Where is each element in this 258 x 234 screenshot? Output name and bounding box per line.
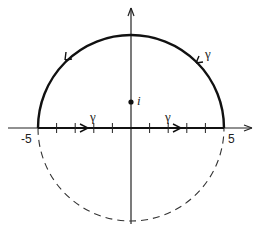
label-gamma-axis-right: γ <box>165 110 171 123</box>
arc-direction-arrow-right <box>196 56 203 63</box>
label-point-i: i <box>137 94 141 107</box>
label-left-bound: -5 <box>21 133 32 145</box>
point-i-marker <box>128 99 133 104</box>
label-gamma-arc: γ <box>205 47 211 60</box>
label-right-bound: 5 <box>228 133 235 145</box>
contour-diagram <box>0 0 258 234</box>
label-gamma-axis-left: γ <box>90 110 96 123</box>
